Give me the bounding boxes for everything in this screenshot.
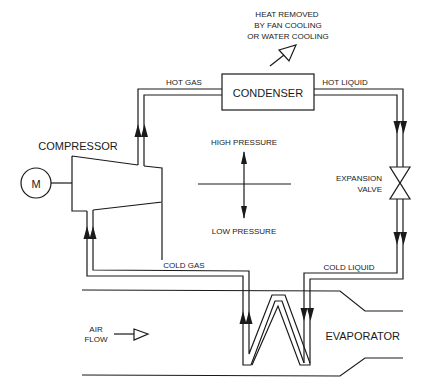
flow-arrow-down-icon xyxy=(400,121,407,134)
compressor-label: COMPRESSOR xyxy=(38,140,118,152)
hot-liquid-label: HOT LIQUID xyxy=(322,78,368,87)
heat-note-line-1: HEAT REMOVED xyxy=(255,10,318,19)
condenser: CONDENSER xyxy=(222,74,314,110)
evaporator-label: EVAPORATOR xyxy=(325,330,400,342)
flow-arrow-up-icon xyxy=(240,311,247,324)
flow-arrow-down-icon xyxy=(400,232,407,245)
heat-out-arrow-icon xyxy=(270,45,296,66)
air-flow-arrow-icon xyxy=(114,329,148,340)
flow-arrow-up-icon xyxy=(135,124,142,137)
low-pressure-label: LOW PRESSURE xyxy=(212,227,276,236)
condenser-label: CONDENSER xyxy=(233,87,303,99)
flow-arrow-down-icon xyxy=(394,121,401,134)
flow-arrow-down-icon xyxy=(307,308,314,321)
flow-arrow-down-icon xyxy=(394,232,401,245)
flow-arrow-up-icon xyxy=(141,124,148,137)
expansion-valve-label-1: EXPANSION xyxy=(336,174,382,183)
flow-arrow-down-icon xyxy=(301,308,308,321)
air-flow-label-1: AIR xyxy=(89,325,103,334)
heat-note-line-3: OR WATER COOLING xyxy=(247,32,328,41)
motor-label: M xyxy=(31,178,40,190)
hot-gas-label: HOT GAS xyxy=(166,78,202,87)
arrow-up-icon xyxy=(241,151,247,164)
motor-icon: M xyxy=(21,168,72,198)
flow-arrow-up-icon xyxy=(90,226,97,239)
hot-liquid-pipe xyxy=(314,89,407,167)
refrigeration-cycle-diagram: HEAT REMOVED BY FAN COOLING OR WATER COO… xyxy=(0,0,421,392)
flow-arrow-up-icon xyxy=(246,311,253,324)
air-flow-label-2: FLOW xyxy=(84,335,108,344)
flow-arrow-up-icon xyxy=(84,226,91,239)
compressor xyxy=(72,156,162,260)
arrow-down-icon xyxy=(241,206,247,219)
hot-gas-pipe xyxy=(135,89,223,166)
evaporator-coil xyxy=(240,273,311,365)
expansion-valve-label-2: VALVE xyxy=(357,185,382,194)
high-pressure-label: HIGH PRESSURE xyxy=(211,138,277,147)
cold-gas-label: COLD GAS xyxy=(163,261,204,270)
heat-note-line-2: BY FAN COOLING xyxy=(254,21,321,30)
pressure-axis xyxy=(198,151,291,219)
expansion-valve-icon xyxy=(390,167,410,199)
cold-liquid-label: COLD LIQUID xyxy=(323,263,374,272)
